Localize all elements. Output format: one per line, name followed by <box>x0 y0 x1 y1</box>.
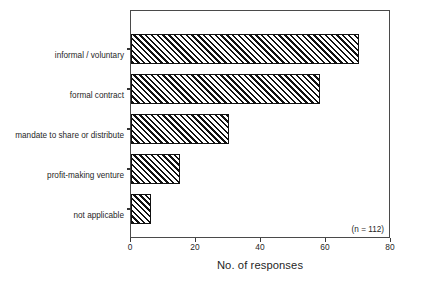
bar-row <box>131 149 389 189</box>
x-axis-title: No. of responses <box>130 259 390 271</box>
x-axis-tick-label: 0 <box>115 243 145 251</box>
sample-size-annotation: (n = 112) <box>352 225 384 234</box>
category-label-mandate-to-share-or-distribute: mandate to share or distribute <box>0 132 126 140</box>
bar-chart-figure: informal / voluntary formal contract man… <box>0 0 421 284</box>
bar-row <box>131 69 389 109</box>
category-label-informal-voluntary: informal / voluntary <box>0 52 126 60</box>
bar-formal-contract <box>131 74 320 104</box>
bar-profit-making-venture <box>131 154 180 184</box>
bar-informal-voluntary <box>131 34 359 64</box>
x-axis-tick-labels: 020406080 <box>0 243 421 257</box>
category-label-profit-making-venture: profit-making venture <box>0 172 126 180</box>
x-axis-tick-label: 60 <box>310 243 340 251</box>
bar-row <box>131 29 389 69</box>
category-label-formal-contract: formal contract <box>0 92 126 100</box>
category-label-not-applicable: not applicable <box>0 212 126 220</box>
x-axis-tick-label: 20 <box>180 243 210 251</box>
category-axis-labels: informal / voluntary formal contract man… <box>0 10 126 238</box>
x-axis-tick-label: 40 <box>245 243 275 251</box>
bar-row <box>131 189 389 229</box>
x-axis-tick-label: 80 <box>375 243 405 251</box>
bar-mandate-to-share-or-distribute <box>131 114 229 144</box>
bar-not-applicable <box>131 194 151 224</box>
plot-area: (n = 112) <box>130 10 390 238</box>
bar-row <box>131 109 389 149</box>
